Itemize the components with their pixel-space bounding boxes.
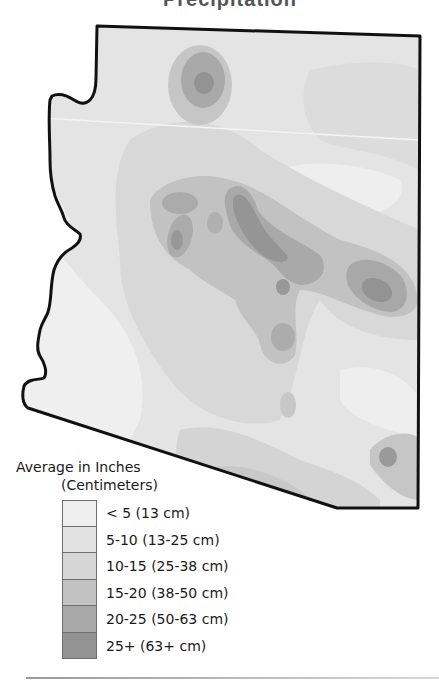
legend-label: 5-10 (13-25 cm) — [106, 532, 220, 548]
legend-item: 25+ (63+ cm) — [62, 633, 229, 660]
legend-item: 15-20 (38-50 cm) — [62, 580, 229, 607]
legend-heading-line2: (Centimeters) — [16, 476, 256, 494]
legend-label: 25+ (63+ cm) — [106, 638, 206, 654]
precipitation-zones — [0, 0, 439, 520]
bottom-divider — [26, 677, 439, 679]
legend-label: 10-15 (25-38 cm) — [106, 558, 229, 574]
legend-item: 10-15 (25-38 cm) — [62, 553, 229, 580]
legend-swatch — [62, 633, 97, 660]
legend-heading: Average in Inches (Centimeters) — [16, 458, 256, 494]
legend-swatch — [62, 606, 97, 633]
legend-item: < 5 (13 cm) — [62, 500, 229, 527]
legend-items: < 5 (13 cm) 5-10 (13-25 cm) 10-15 (25-38… — [62, 500, 229, 659]
legend-label: 15-20 (38-50 cm) — [106, 585, 229, 601]
legend-label: < 5 (13 cm) — [106, 505, 190, 521]
legend-swatch — [62, 553, 97, 580]
legend-item: 5-10 (13-25 cm) — [62, 527, 229, 554]
legend: Average in Inches (Centimeters) < 5 (13 … — [16, 458, 256, 494]
legend-label: 20-25 (50-63 cm) — [106, 611, 229, 627]
legend-heading-line1: Average in Inches — [16, 459, 141, 475]
legend-swatch — [62, 500, 97, 527]
legend-item: 20-25 (50-63 cm) — [62, 606, 229, 633]
legend-swatch — [62, 527, 97, 554]
precipitation-map — [0, 0, 439, 520]
legend-swatch — [62, 580, 97, 607]
